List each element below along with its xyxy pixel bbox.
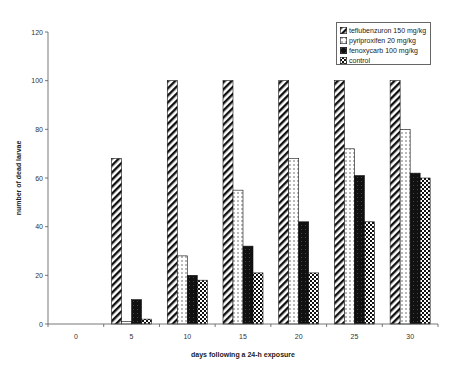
bar: [364, 222, 374, 324]
bar: [243, 246, 253, 324]
legend-label: teflubenzuron 150 mg/kg: [349, 27, 426, 34]
bar: [197, 280, 207, 324]
legend-item: control: [340, 55, 427, 65]
y-tick-label: 40: [35, 223, 43, 230]
legend-swatch-icon: [340, 27, 347, 34]
bar: [112, 159, 122, 324]
y-tick-label: 120: [31, 29, 43, 36]
legend-swatch-icon: [340, 57, 347, 64]
y-tick-label: 0: [39, 321, 43, 328]
bar: [420, 178, 430, 324]
legend-swatch-icon: [340, 37, 347, 44]
x-tick-label: 30: [406, 333, 414, 340]
bar: [344, 149, 354, 324]
bar: [279, 81, 289, 324]
x-axis: 051015202530: [48, 324, 438, 340]
bar: [309, 273, 319, 324]
x-tick-label: 10: [183, 333, 191, 340]
bar: [167, 81, 177, 324]
y-tick-label: 80: [35, 126, 43, 133]
bar: [142, 319, 152, 324]
legend-item: teflubenzuron 150 mg/kg: [340, 25, 427, 35]
y-tick-label: 100: [31, 77, 43, 84]
bar: [132, 300, 142, 324]
bar: [390, 81, 400, 324]
x-tick-label: 25: [351, 333, 359, 340]
legend-label: pyriproxifen 20 mg/kg: [349, 37, 416, 44]
legend-label: fenoxycarb 100 mg/kg: [349, 47, 418, 54]
bar: [177, 256, 187, 324]
legend-item: pyriproxifen 20 mg/kg: [340, 35, 427, 45]
y-axis-title: number of dead larvae: [15, 141, 22, 216]
y-tick-label: 60: [35, 175, 43, 182]
legend-label: control: [349, 57, 370, 64]
bar: [233, 190, 243, 324]
bar: [253, 273, 263, 324]
x-axis-title: days following a 24-h exposure: [191, 351, 295, 359]
bar: [299, 222, 309, 324]
bar: [334, 81, 344, 324]
bar: [187, 275, 197, 324]
bars: [112, 81, 431, 324]
bar: [223, 81, 233, 324]
legend-item: fenoxycarb 100 mg/kg: [340, 45, 427, 55]
y-tick-label: 20: [35, 272, 43, 279]
y-axis: 020406080100120: [31, 29, 48, 328]
legend-swatch-icon: [340, 47, 347, 54]
bar: [354, 176, 364, 324]
x-tick-label: 15: [239, 333, 247, 340]
bar: [289, 159, 299, 324]
x-tick-label: 5: [130, 333, 134, 340]
legend: teflubenzuron 150 mg/kgpyriproxifen 20 m…: [336, 22, 431, 65]
bar: [400, 129, 410, 324]
x-tick-label: 0: [74, 333, 78, 340]
x-tick-label: 20: [295, 333, 303, 340]
bar: [410, 173, 420, 324]
